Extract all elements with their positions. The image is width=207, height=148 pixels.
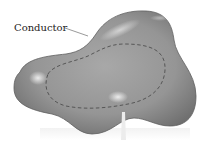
highlight-left <box>29 71 47 85</box>
diagram-canvas: Conductor <box>0 0 207 148</box>
conductor-label: Conductor <box>14 22 67 34</box>
floor-shadow <box>40 128 190 140</box>
highlight-peak <box>150 15 170 21</box>
highlight-center <box>108 91 128 103</box>
leader-line-conductor <box>65 28 88 36</box>
